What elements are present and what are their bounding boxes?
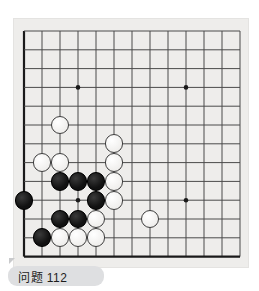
go-problem-figure: 问题 112 xyxy=(0,0,259,291)
white-stone[interactable] xyxy=(141,210,160,229)
black-stone[interactable] xyxy=(87,172,106,191)
black-stone[interactable] xyxy=(69,172,88,191)
white-stone[interactable] xyxy=(87,228,106,247)
white-stone[interactable] xyxy=(87,210,106,229)
white-stone[interactable] xyxy=(105,191,124,210)
go-board-panel[interactable] xyxy=(14,19,248,267)
black-stone[interactable] xyxy=(51,172,70,191)
white-stone[interactable] xyxy=(105,153,124,172)
white-stone[interactable] xyxy=(69,228,88,247)
problem-caption-label: 问题 112 xyxy=(18,268,67,285)
white-stone[interactable] xyxy=(105,134,124,153)
white-stone[interactable] xyxy=(33,153,52,172)
black-stone[interactable] xyxy=(15,191,34,210)
black-stone[interactable] xyxy=(87,191,106,210)
black-stone[interactable] xyxy=(51,210,70,229)
black-stone[interactable] xyxy=(69,210,88,229)
go-stones-layer xyxy=(14,19,248,267)
white-stone[interactable] xyxy=(51,116,70,135)
white-stone[interactable] xyxy=(51,228,70,247)
folded-corner-icon xyxy=(9,258,15,264)
white-stone[interactable] xyxy=(105,172,124,191)
white-stone[interactable] xyxy=(51,153,70,172)
problem-caption: 问题 112 xyxy=(8,266,104,286)
black-stone[interactable] xyxy=(33,228,52,247)
